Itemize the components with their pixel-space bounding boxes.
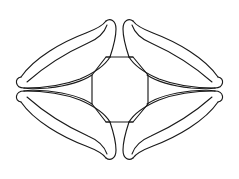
figure-background [0, 0, 239, 179]
symmetric-lobe-figure [0, 0, 239, 179]
figure-canvas [0, 0, 239, 179]
